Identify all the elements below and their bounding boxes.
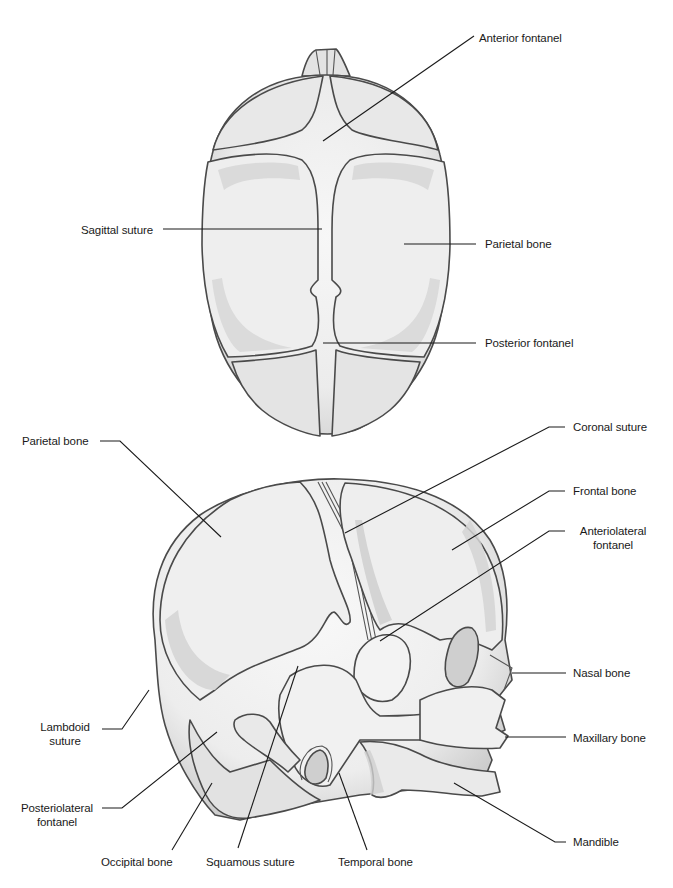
left-occipital-top (232, 350, 320, 436)
left-parietal-bone-top (202, 154, 319, 357)
label-mandible: Mandible (573, 835, 619, 849)
label-posterior-fontanel: Posterior fontanel (485, 336, 573, 350)
maxilla-side (420, 687, 508, 749)
right-occipital-top (332, 350, 420, 436)
label-sagittal-suture: Sagittal suture (81, 223, 153, 237)
skull-diagram: Anterior fontanel Sagittal suture Pariet… (0, 0, 673, 888)
label-parietal-bone-top: Parietal bone (485, 237, 551, 251)
label-anteriolateral-fontanel: Anteriolateral fontanel (572, 524, 654, 552)
label-squamous-suture: Squamous suture (206, 855, 295, 869)
label-occipital-bone: Occipital bone (101, 855, 172, 869)
label-posteriolateral-fontanel: Posteriolateral fontanel (14, 801, 100, 829)
leader-line-lambdoid-suture (102, 690, 149, 729)
lateral-view (153, 479, 512, 820)
superior-view (202, 49, 450, 436)
label-nasal-bone: Nasal bone (573, 666, 630, 680)
right-parietal-bone-top (332, 154, 450, 357)
label-frontal-bone: Frontal bone (573, 484, 636, 498)
label-anterior-fontanel: Anterior fontanel (479, 31, 562, 45)
label-lambdoid-suture: Lambdoid suture (32, 720, 98, 748)
skull-illustration (0, 0, 673, 888)
nasal-tip (302, 49, 350, 76)
label-temporal-bone: Temporal bone (338, 855, 413, 869)
label-parietal-bone-side: Parietal bone (22, 434, 88, 448)
label-coronal-suture: Coronal suture (573, 420, 647, 434)
leader-line-occipital-bone (172, 783, 212, 850)
label-maxillary-bone: Maxillary bone (573, 731, 646, 745)
